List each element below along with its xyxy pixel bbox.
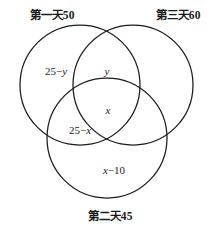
region-label-day-one-and-day-two: 25−x	[69, 125, 91, 136]
region-prefix: 25−	[69, 124, 86, 136]
venn-diagram-figure: 第一天50 第三天60 第二天45 25−y y x 25−x x−10	[0, 0, 213, 230]
region-label-all-three: x	[106, 105, 111, 116]
region-variable: y	[62, 65, 67, 77]
region-suffix: −10	[108, 164, 125, 176]
set-label-day-one: 第一天50	[30, 10, 75, 22]
region-variable: x	[106, 104, 111, 116]
region-variable: x	[86, 124, 91, 136]
region-variable: y	[105, 65, 110, 77]
set-label-day-two: 第二天45	[88, 211, 133, 223]
region-label-day-two-only: x−10	[103, 165, 125, 176]
region-prefix: 25−	[45, 65, 62, 77]
region-label-day-one-only: 25−y	[45, 66, 67, 77]
set-label-day-three: 第三天60	[156, 10, 201, 22]
region-label-day-one-and-day-three: y	[105, 66, 110, 77]
